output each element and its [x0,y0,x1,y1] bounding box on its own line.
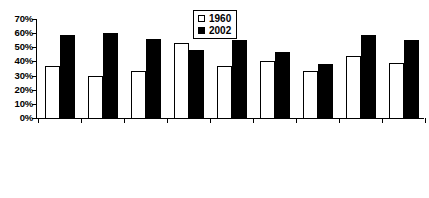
x-axis-label-1: U.S. [55,126,69,196]
y-tick-label: 30% [0,71,33,81]
x-tick-mark [382,118,383,123]
y-tick-label: 20% [0,85,33,95]
x-axis-label-9: U.K.** [399,126,413,196]
y-tick-label: 60% [0,28,33,38]
bar-1960 [217,66,232,118]
bar-2002 [404,40,419,118]
x-axis-label-8: Sweden+ [356,126,370,196]
x-tick-mark [425,118,426,123]
legend-label: 2002 [209,26,231,36]
legend-entry-2002: 2002 [198,25,231,36]
x-axis-label-2: Canada [98,126,112,196]
bar-group [389,19,419,118]
bar-group [45,19,75,118]
bar-1960 [260,61,275,118]
bar-1960 [174,43,189,118]
bar-2002 [232,40,247,118]
legend-entry-1960: 1960 [198,13,231,24]
chart-legend: 1960 2002 [193,10,237,39]
x-axis-label-3: Australia* [141,126,155,196]
bar-1960 [45,66,60,118]
bar-1960 [303,71,318,118]
y-tick-label: 0% [0,113,33,123]
bar-group [131,19,161,118]
bar-1960 [389,63,404,118]
bar-2002 [146,39,161,118]
x-axis-label-5: France+ [227,126,241,196]
bar-1960 [88,76,103,118]
x-axis-line [36,118,424,119]
y-tick-label: 40% [0,56,33,66]
y-tick-label: 70% [0,14,33,24]
bar-group [88,19,118,118]
x-tick-mark [38,118,39,123]
x-tick-mark [210,118,211,123]
x-axis-label-4: Japan [184,126,198,196]
x-tick-mark [339,118,340,123]
open-square-icon [198,15,205,22]
filled-square-icon [198,27,205,34]
legend-label: 1960 [209,14,231,24]
bar-2002 [189,50,204,118]
x-tick-mark [124,118,125,123]
bar-2002 [60,35,75,118]
bar-2002 [361,35,376,118]
bar-1960 [131,71,146,118]
x-tick-mark [167,118,168,123]
x-tick-mark [253,118,254,123]
y-tick-label: 50% [0,42,33,52]
x-tick-mark [296,118,297,123]
x-tick-mark [81,118,82,123]
y-axis-labels: 70%60%50%40%30%20%10%0% [0,13,33,125]
bar-group [346,19,376,118]
bar-2002 [275,52,290,118]
x-axis-label-6: Germany** [270,126,284,196]
bar-2002 [318,64,333,118]
y-tick-label: 10% [0,99,33,109]
bar-1960 [346,56,361,118]
bar-group [260,19,290,118]
bar-2002 [103,33,118,118]
x-axis-label-7: Italy** [313,126,327,196]
bar-group [303,19,333,118]
bar-chart: 70%60%50%40%30%20%10%0% U.S.CanadaAustra… [0,0,429,198]
